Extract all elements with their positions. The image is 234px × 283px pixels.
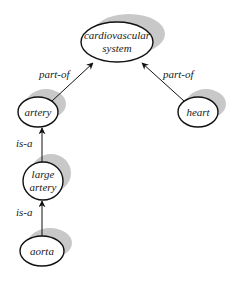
node-artery: artery <box>18 97 58 127</box>
node-label: aorta <box>30 245 54 257</box>
concept-diagram: part-of part-of is-a is-a cardiovascular… <box>0 0 234 283</box>
node-label: artery <box>25 106 52 118</box>
node-label-line-1: cardiovascular <box>84 29 151 41</box>
node-heart: heart <box>178 97 218 127</box>
edge-label-part-of-left: part-of <box>38 68 72 80</box>
node-label-line-1: large <box>32 168 55 180</box>
node-aorta: aorta <box>20 236 64 266</box>
node-label: heart <box>186 106 210 118</box>
node-large-artery: large artery <box>23 162 63 200</box>
edge-label-is-a-upper: is-a <box>16 137 33 149</box>
edge-label-is-a-lower: is-a <box>16 206 33 218</box>
edge-label-part-of-right: part-of <box>162 68 196 80</box>
node-label-line-2: artery <box>30 181 57 193</box>
node-cardiovascular-system: cardiovascular system <box>81 22 153 62</box>
node-label-line-2: system <box>102 42 131 54</box>
edges <box>42 63 184 236</box>
